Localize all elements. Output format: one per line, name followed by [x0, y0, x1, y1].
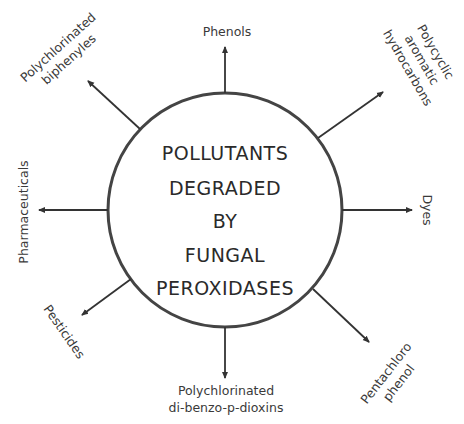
center-line-3: BY — [213, 210, 238, 232]
svg-text:Pesticides: Pesticides — [40, 302, 88, 362]
label-pcb: Polychlorinated biphenyles — [17, 9, 109, 96]
label-pah: Polycyclic aromatic hydrocarbons — [380, 11, 463, 109]
center-line-5: PEROXIDASES — [156, 277, 294, 299]
center-line-4: FUNGAL — [185, 244, 265, 266]
svg-text:Phenols: Phenols — [203, 24, 252, 39]
arrow-pah — [318, 92, 383, 138]
pollutants-diagram: POLLUTANTS DEGRADED BY FUNGAL PEROXIDASE… — [0, 0, 464, 424]
svg-text:Dyes: Dyes — [420, 194, 435, 225]
label-dyes: Dyes — [420, 194, 435, 225]
arrow-pesticides — [82, 279, 131, 315]
center-line-2: DEGRADED — [169, 177, 281, 199]
svg-text:di-benzo-p-dioxins: di-benzo-p-dioxins — [169, 400, 284, 415]
label-pcdd: Polychlorinated di-benzo-p-dioxins — [169, 383, 284, 415]
arrow-pcb — [88, 81, 140, 129]
label-pharmaceuticals: Pharmaceuticals — [16, 160, 31, 263]
label-pesticides: Pesticides — [40, 302, 88, 362]
arrow-pcp — [313, 289, 369, 342]
svg-text:Pharmaceuticals: Pharmaceuticals — [16, 160, 31, 263]
center-line-1: POLLUTANTS — [162, 142, 289, 164]
label-pcp: Pentachloro phenol — [357, 339, 427, 416]
label-phenols: Phenols — [203, 24, 252, 39]
svg-text:Polychlorinated: Polychlorinated — [178, 383, 274, 398]
